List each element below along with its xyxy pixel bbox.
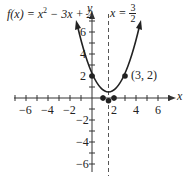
y-tick-label-4: 4 [80,47,86,62]
point-3-2-label: (3, 2) [131,68,157,83]
symmetry-fraction: 3 2 [129,3,136,24]
symmetry-lhs: x = [110,6,126,21]
point-0-2 [89,73,95,79]
x-tick-label-neg4: −4 [41,103,54,118]
function-label-main: f(x) = x [7,7,43,21]
parabola-chart [0,0,188,176]
y-tick-label-neg2: −2 [76,113,89,128]
function-label: f(x) = x2 − 3x + 2 [7,6,93,22]
y-axis-label: y [87,1,92,16]
y-tick-label-neg6: −6 [76,157,89,172]
point-1-0 [100,95,106,101]
point-2-0 [111,95,117,101]
x-tick-label-4: 4 [133,103,139,118]
x-tick-label-2: 2 [111,103,117,118]
axis-of-symmetry-label: x = 3 2 [110,3,136,24]
y-tick-label-neg4: −4 [76,135,89,150]
x-tick-label-neg6: −6 [19,103,32,118]
point-3-2 [122,73,128,79]
function-label-rest: − 3x + 2 [47,7,93,21]
x-tick-label-6: 6 [155,103,161,118]
y-tick-label-6: 6 [80,25,86,40]
y-tick-label-2: 2 [80,69,86,84]
curve-right-arrow-icon [136,20,142,30]
fraction-denominator: 2 [130,14,135,24]
x-tick-label-neg2: −2 [63,103,76,118]
x-axis-label: x [177,89,182,104]
